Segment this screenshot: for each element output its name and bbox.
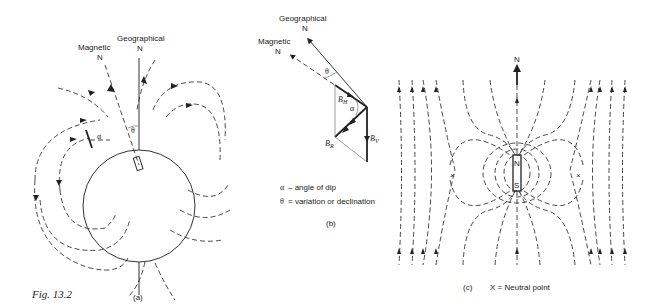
- field-line: [35, 120, 100, 180]
- field-line: [59, 138, 90, 190]
- arrow-icon: [56, 180, 62, 186]
- field-line: [524, 180, 583, 206]
- field-line: [60, 190, 116, 229]
- field-line: [58, 88, 108, 117]
- figure-caption: Fig. 13.2: [31, 288, 73, 300]
- field-line: [155, 263, 175, 300]
- field-line: [623, 80, 626, 265]
- alpha-arc: [356, 100, 358, 115]
- inner-magnet: [133, 156, 143, 170]
- bh-label: BH: [338, 95, 348, 105]
- arrow-icon: [397, 248, 401, 254]
- b-magnetic-n-label: N: [275, 47, 281, 56]
- field-line: [423, 80, 432, 265]
- arrow-icon: [88, 90, 95, 96]
- arrow-icon: [623, 86, 627, 92]
- field-line: [495, 191, 515, 265]
- panel-c-label: (c): [463, 283, 473, 292]
- arrow-icon: [515, 248, 519, 254]
- field-line: [166, 104, 220, 160]
- b-geographical-label: Geographical: [279, 14, 327, 23]
- arrow-icon: [589, 86, 593, 92]
- legend-theta-symbol: θ: [280, 197, 284, 206]
- field-line: [463, 80, 515, 155]
- legend-theta-text: = variation or declination: [288, 197, 375, 206]
- panel-b-vector-diagram: Geographical N Magnetic N θ α BH BV BR α…: [258, 14, 380, 228]
- neutral-point-right: ×: [576, 171, 581, 180]
- north-label: N: [514, 55, 520, 64]
- arrow-icon: [70, 137, 77, 142]
- field-line: [170, 230, 222, 241]
- field-line: [180, 210, 230, 218]
- field-line: [519, 80, 575, 155]
- magnetic-label: Magnetic: [78, 43, 110, 52]
- field-line: [519, 191, 540, 265]
- field-line: [609, 80, 612, 265]
- arrow-icon: [598, 248, 602, 254]
- neutral-point-left: ×: [450, 171, 455, 180]
- b-alpha-symbol: α: [350, 104, 355, 113]
- neutral-point-legend: X = Neutral point: [490, 283, 551, 292]
- field-line: [153, 82, 225, 140]
- arrow-icon: [410, 86, 414, 92]
- figure-canvas: Magnetic N Geographical N θ α (a) Fig. 1…: [0, 0, 661, 307]
- panel-c-bar-magnet-field: N N S: [397, 55, 627, 292]
- br-label: BR: [325, 139, 334, 149]
- geographical-n-label: N: [137, 44, 143, 53]
- field-line: [450, 180, 510, 206]
- arrow-icon: [80, 118, 87, 123]
- arrow-icon: [610, 248, 614, 254]
- arrow-icon: [397, 86, 401, 92]
- north-arrow-icon: [513, 64, 521, 72]
- arrow-icon: [610, 86, 614, 92]
- b-magnetic-label: Magnetic: [258, 37, 290, 46]
- field-line: [450, 140, 510, 165]
- arrow-icon: [171, 83, 178, 89]
- field-line: [137, 60, 155, 110]
- field-line: [128, 262, 145, 297]
- field-line: [519, 191, 575, 265]
- arrow-icon: [107, 84, 115, 92]
- b-theta-symbol: θ: [325, 67, 329, 76]
- earth-circle: [83, 150, 195, 262]
- magnet-south-label: S: [514, 181, 519, 190]
- magnet-north-label: N: [514, 159, 520, 168]
- panel-b-label: (b): [326, 219, 336, 228]
- panel-a-earth-field: Magnetic N Geographical N θ α (a) Fig. 1…: [31, 34, 230, 302]
- field-line: [412, 80, 415, 265]
- panel-a-label: (a): [133, 293, 143, 302]
- field-line: [399, 80, 402, 265]
- field-line: [40, 200, 130, 250]
- arrow-icon: [515, 97, 519, 103]
- theta-symbol: θ: [131, 126, 135, 135]
- arrow-icon: [421, 248, 425, 254]
- geographical-label: Geographical: [117, 34, 165, 43]
- magnetic-n-label: N: [97, 53, 103, 62]
- legend-alpha-symbol: α: [280, 183, 285, 192]
- arrow-icon: [589, 248, 593, 254]
- arrow-icon: [347, 92, 354, 97]
- arrow-icon: [434, 248, 438, 254]
- arrow-icon: [623, 248, 627, 254]
- arrow-icon: [410, 248, 414, 254]
- arrow-icon: [33, 195, 39, 201]
- field-line: [593, 80, 601, 265]
- magnetic-axis: [105, 65, 139, 165]
- bv-label: BV: [370, 134, 380, 144]
- legend-alpha-text: – angle of dip: [288, 183, 337, 192]
- parallelogram-edge: [335, 137, 367, 162]
- b-geographical-n-label: N: [302, 24, 308, 33]
